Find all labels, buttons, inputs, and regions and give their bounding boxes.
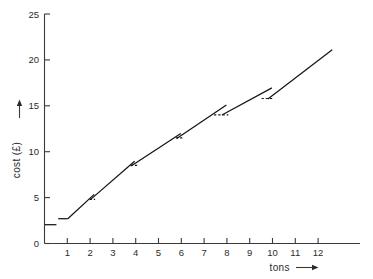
x-tick-label-9: 9	[247, 247, 252, 258]
y-tick-label-25: 25	[28, 9, 39, 20]
y-axis-title: cost (£)	[11, 142, 22, 179]
y-tick-label-0: 0	[34, 238, 39, 249]
x-tick-label-10: 10	[267, 247, 278, 258]
y-tick-label-20: 20	[28, 54, 39, 65]
data-segment-3	[177, 105, 227, 138]
x-axis-group: 1 2 3 4 5 6 7 8 9 10 11 12 tons	[45, 238, 361, 273]
y-tick-label-5: 5	[34, 192, 39, 203]
x-tick-label-1: 1	[65, 247, 70, 258]
x-tick-label-3: 3	[110, 247, 115, 258]
data-segment-1	[90, 161, 135, 200]
chart-figure: 25 20 15 10 5 0 cost (£)	[0, 0, 373, 279]
x-tick-label-12: 12	[313, 247, 324, 258]
x-tick-label-6: 6	[179, 247, 184, 258]
line-chart: 25 20 15 10 5 0 cost (£)	[0, 0, 373, 279]
data-segment-0	[68, 194, 94, 218]
x-tick-label-7: 7	[201, 247, 206, 258]
y-axis-arrow-icon	[17, 100, 22, 119]
x-tick-label-5: 5	[156, 247, 161, 258]
data-segment-2	[131, 133, 181, 166]
data-segment-4	[222, 88, 272, 115]
y-axis-group: 25 20 15 10 5 0 cost (£)	[11, 9, 50, 250]
data-series-cost	[45, 50, 332, 225]
x-axis-arrow-icon	[296, 265, 319, 270]
data-segment-5	[268, 50, 332, 99]
y-tick-label-15: 15	[28, 100, 39, 111]
x-tick-label-4: 4	[133, 247, 138, 258]
y-tick-label-10: 10	[28, 146, 39, 157]
x-axis-title: tons	[269, 262, 290, 273]
x-tick-label-2: 2	[87, 247, 92, 258]
x-tick-label-8: 8	[224, 247, 229, 258]
x-tick-label-11: 11	[290, 247, 300, 258]
